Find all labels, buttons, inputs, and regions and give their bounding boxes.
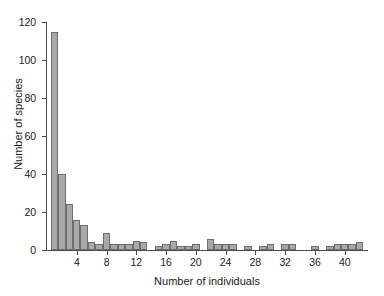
x-axis-tick-label: 36	[302, 257, 328, 268]
bars-layer	[47, 22, 367, 250]
histogram-bar	[162, 244, 169, 250]
histogram-bar	[289, 244, 296, 250]
x-axis-tick	[285, 251, 286, 255]
histogram-bar	[51, 32, 58, 251]
histogram-bar	[259, 246, 266, 250]
x-axis-tick-label: 4	[64, 257, 90, 268]
histogram-bar	[140, 242, 147, 250]
x-axis-tick	[77, 251, 78, 255]
x-axis-tick-label: 16	[153, 257, 179, 268]
x-axis-tick	[136, 251, 137, 255]
histogram-figure: 020406080100120 481216202428323640 Numbe…	[0, 0, 384, 296]
x-axis-tick	[345, 251, 346, 255]
x-axis-tick-label: 20	[183, 257, 209, 268]
y-axis-tick	[42, 250, 46, 251]
y-axis-tick-label: 20	[2, 207, 36, 218]
histogram-bar	[58, 174, 65, 250]
histogram-bar	[244, 246, 251, 250]
histogram-bar	[110, 244, 117, 250]
plot-area	[47, 22, 367, 250]
histogram-bar	[88, 242, 95, 250]
histogram-bar	[125, 244, 132, 250]
y-axis-tick	[42, 174, 46, 175]
x-axis-tick-label: 40	[332, 257, 358, 268]
histogram-bar	[66, 204, 73, 250]
x-axis-tick	[166, 251, 167, 255]
x-axis-title: Number of individuals	[47, 275, 367, 287]
y-axis-tick	[42, 60, 46, 61]
x-axis-tick-label: 24	[213, 257, 239, 268]
y-axis-tick	[42, 22, 46, 23]
y-axis-title: Number of species	[12, 54, 24, 194]
histogram-bar	[341, 244, 348, 250]
histogram-bar	[334, 244, 341, 250]
histogram-bar	[103, 233, 110, 250]
y-axis-tick	[42, 136, 46, 137]
x-axis-tick-label: 12	[123, 257, 149, 268]
histogram-bar	[311, 246, 318, 250]
histogram-bar	[348, 244, 355, 250]
histogram-bar	[229, 244, 236, 250]
histogram-bar	[73, 220, 80, 250]
x-axis-tick-label: 32	[272, 257, 298, 268]
x-axis-tick-label: 28	[242, 257, 268, 268]
histogram-bar	[185, 246, 192, 250]
histogram-bar	[281, 244, 288, 250]
histogram-bar	[207, 239, 214, 250]
histogram-bar	[192, 244, 199, 250]
histogram-bar	[214, 244, 221, 250]
histogram-bar	[118, 244, 125, 250]
histogram-bar	[222, 244, 229, 250]
x-axis-tick-label: 8	[94, 257, 120, 268]
histogram-bar	[155, 246, 162, 250]
histogram-bar	[267, 244, 274, 250]
y-axis-tick-label: 0	[2, 245, 36, 256]
x-axis-tick	[107, 251, 108, 255]
x-axis-tick	[226, 251, 227, 255]
x-axis-tick	[315, 251, 316, 255]
histogram-bar	[133, 241, 140, 251]
histogram-bar	[80, 225, 87, 250]
histogram-bar	[356, 242, 363, 250]
histogram-bar	[95, 244, 102, 250]
histogram-bar	[170, 241, 177, 251]
y-axis-tick	[42, 98, 46, 99]
histogram-bar	[177, 246, 184, 250]
x-axis-tick	[196, 251, 197, 255]
x-axis-tick	[255, 251, 256, 255]
histogram-bar	[326, 246, 333, 250]
y-axis-tick	[42, 212, 46, 213]
x-axis-line	[46, 250, 368, 251]
y-axis-tick-label: 120	[2, 17, 36, 28]
